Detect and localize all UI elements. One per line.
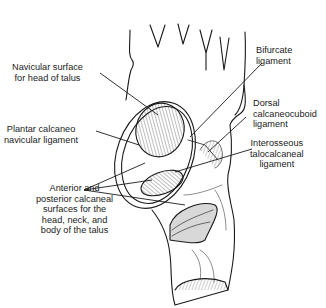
label-navicular-surface: Navicular surface for head of talus — [12, 62, 83, 83]
label-line: posterior calcaneal — [36, 194, 113, 205]
label-line: Plantar calcaneo — [4, 124, 78, 135]
label-plantar-calcaneonavicular-ligament: Plantar calcaneo navicular ligament — [4, 124, 78, 145]
anatomy-diagram: Navicular surface for head of talus Bifu… — [0, 0, 326, 308]
label-line: for head of talus — [12, 73, 83, 84]
label-line: ligament — [253, 119, 317, 130]
label-dorsal-calcaneocuboid-ligament: Dorsal calcaneocuboid ligament — [253, 98, 317, 130]
label-line: Anterior and — [36, 183, 113, 194]
label-line: Bifurcate — [256, 45, 292, 56]
label-line: Interosseous — [250, 138, 304, 149]
label-bifurcate-ligament: Bifurcate ligament — [256, 45, 292, 66]
label-line: body of the talus — [36, 225, 113, 236]
label-interosseous-talocalcaneal-ligament: Interosseous talocalcaneal ligament — [250, 138, 304, 170]
label-line: talocalcaneal — [250, 149, 304, 160]
label-line: ligament — [256, 56, 292, 67]
label-line: Navicular surface — [12, 62, 83, 73]
label-line: navicular ligament — [4, 135, 78, 146]
label-calcaneal-surfaces: Anterior and posterior calcaneal surface… — [36, 183, 113, 236]
label-line: surfaces for the — [36, 204, 113, 215]
label-line: ligament — [250, 159, 304, 170]
label-line: Dorsal — [253, 98, 317, 109]
label-line: calcaneocuboid — [253, 109, 317, 120]
label-line: head, neck, and — [36, 215, 113, 226]
